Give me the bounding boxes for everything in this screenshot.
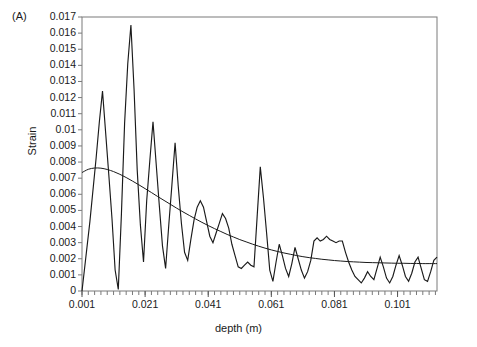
- data-series-group: [82, 25, 437, 291]
- chart-plot-area: [0, 0, 477, 347]
- plot-frame: [82, 17, 437, 291]
- figure-panel-a: (A) Strain depth (m) 00.0010.0020.0030.0…: [0, 0, 477, 347]
- axes-group: [78, 17, 437, 297]
- series-measured-strain: [82, 25, 437, 291]
